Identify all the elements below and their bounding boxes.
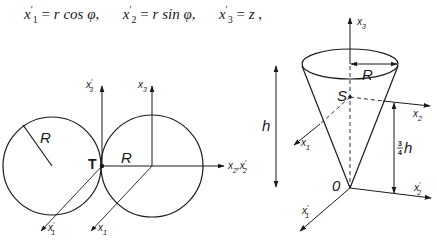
label-T: T: [88, 156, 97, 172]
label-x2-x2prime: x2,x′2: [227, 159, 247, 174]
axis-x2-dashed: [350, 97, 383, 101]
label-x1: x1: [97, 222, 107, 236]
diagram-canvas: R R T x′3 x3 x2,x′2 x′1 x1: [0, 0, 437, 242]
label-cone-x1: x1: [300, 137, 310, 151]
label-cone-R: R: [362, 66, 373, 83]
svg-text:h: h: [404, 139, 412, 156]
label-x3-prime: x′3: [85, 78, 93, 93]
label-cone-x2-prime: x′2: [413, 181, 421, 196]
label-cone-x1-prime: x′1: [301, 204, 309, 219]
tangent-circles-labels: R R T x′3 x3 x2,x′2 x′1 x1: [40, 78, 247, 236]
label-x3: x3: [137, 79, 147, 93]
label-R-left: R: [40, 129, 51, 146]
svg-text:3: 3: [398, 140, 402, 147]
tangent-circles-diagram: [3, 86, 224, 231]
label-x1-prime: x′1: [47, 221, 55, 236]
label-cone-x2: x2: [412, 108, 422, 122]
axis-x2: [383, 101, 430, 106]
label-origin-O: 0: [332, 177, 341, 194]
svg-text:4: 4: [398, 149, 402, 156]
label-three-quarter-h: 3 4 h: [397, 139, 412, 156]
tangent-point-dot: [100, 164, 103, 167]
label-R-right: R: [121, 149, 132, 166]
cone-left-edge: [302, 66, 350, 188]
figure: x′1 = r cos φ, x′2 = r sin φ, x′3 = z ,: [0, 0, 437, 242]
axis-x1: [294, 124, 320, 145]
centroid-S-dot: [349, 96, 351, 98]
label-h: h: [262, 117, 270, 134]
cone-diagram: [276, 18, 431, 231]
label-S: S: [337, 87, 347, 104]
cone-right-edge: [350, 66, 398, 188]
cone-labels: x3 R S h x2 x1 3 4 h 0 x′2 x′1: [262, 16, 422, 219]
label-cone-x3: x3: [356, 16, 366, 30]
